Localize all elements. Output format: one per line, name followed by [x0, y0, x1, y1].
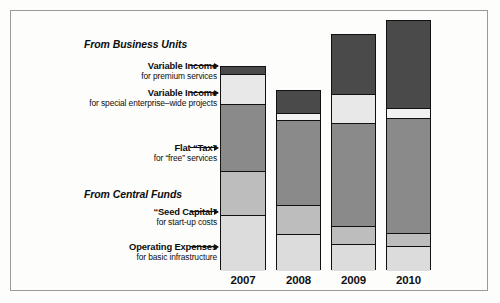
- callout-subtitle: for special enterprise–wide projects: [30, 98, 217, 108]
- leader-line-variable-income-special: [190, 92, 218, 93]
- bar-segment-seed-capital: [387, 234, 430, 247]
- callout-variable-income-premium: Variable Income for premium services: [30, 60, 217, 81]
- bar-segment-flat-tax: [387, 119, 430, 234]
- bar-segment-seed-capital: [221, 172, 265, 216]
- callout-subtitle: for premium services: [30, 71, 217, 81]
- callout-variable-income-special: Variable Income for special enterprise–w…: [30, 87, 217, 108]
- bar-segment-seed-capital: [277, 206, 320, 235]
- bar-2008: [276, 90, 321, 270]
- bar-segment-variable-income-premium: [387, 21, 430, 109]
- bar-segment-operating-expenses: [387, 247, 430, 271]
- bar-segment-seed-capital: [332, 227, 375, 245]
- callout-subtitle: for start-up costs: [30, 217, 217, 227]
- bar-segment-flat-tax: [221, 105, 265, 172]
- bar-segment-variable-income-premium: [277, 91, 320, 114]
- callout-title: Variable Income: [30, 87, 217, 98]
- bar-2010: [386, 20, 431, 270]
- bar-segment-operating-expenses: [221, 216, 265, 271]
- group-heading-business-units: From Business Units: [84, 38, 187, 50]
- callout-title: Variable Income: [30, 60, 217, 71]
- bar-segment-variable-income-special: [221, 75, 265, 105]
- bar-segment-operating-expenses: [332, 245, 375, 271]
- bar-segment-flat-tax: [277, 121, 320, 206]
- bar-segment-variable-income-special: [277, 114, 320, 121]
- callout-title: Flat “Tax”: [30, 142, 217, 153]
- callout-subtitle: for basic infrastructure: [30, 252, 217, 262]
- callout-operating-expenses: Operating Expenses for basic infrastruct…: [30, 241, 217, 262]
- x-axis-label-2009: 2009: [331, 274, 376, 286]
- x-axis-label-2010: 2010: [386, 274, 431, 286]
- callout-flat-tax: Flat “Tax” for “free” services: [30, 142, 217, 163]
- x-axis-label-2008: 2008: [276, 274, 321, 286]
- leader-line-variable-income-premium: [190, 65, 218, 66]
- callout-subtitle: for “free” services: [30, 153, 217, 163]
- bar-segment-operating-expenses: [277, 235, 320, 271]
- callout-title: Operating Expenses: [30, 241, 217, 252]
- x-axis-label-2007: 2007: [220, 274, 266, 286]
- chart-page: From Business Units From Central Funds V…: [0, 0, 500, 303]
- bar-segment-flat-tax: [332, 124, 375, 227]
- bar-segment-variable-income-special: [332, 95, 375, 124]
- leader-line-operating-expenses: [190, 246, 218, 247]
- bar-segment-variable-income-special: [387, 109, 430, 119]
- bar-2007: [220, 66, 266, 270]
- group-heading-central-funds: From Central Funds: [84, 188, 182, 200]
- callout-seed-capital: “Seed Capital” for start-up costs: [30, 206, 217, 227]
- leader-line-seed-capital: [190, 211, 218, 212]
- bar-segment-variable-income-premium: [221, 67, 265, 75]
- callout-title: “Seed Capital”: [30, 206, 217, 217]
- bar-2009: [331, 34, 376, 270]
- leader-line-flat-tax: [190, 147, 218, 148]
- bar-segment-variable-income-premium: [332, 35, 375, 95]
